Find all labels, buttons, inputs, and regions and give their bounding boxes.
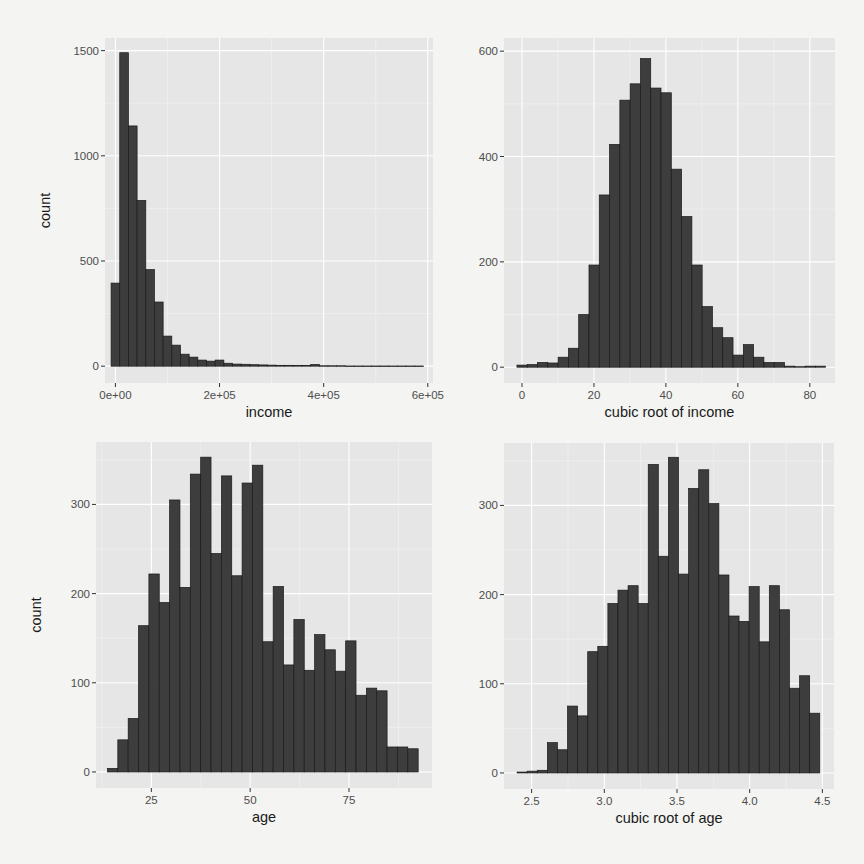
- x-tick-label: 4e+05: [308, 389, 340, 401]
- histogram-bar: [805, 366, 815, 367]
- histogram-bar: [241, 364, 250, 366]
- histogram-bar: [517, 772, 527, 773]
- histogram-bar: [294, 619, 304, 771]
- histogram-bar: [800, 676, 810, 773]
- histogram-bar: [304, 670, 314, 772]
- x-tick-label: 2e+05: [203, 389, 235, 401]
- histogram-bar: [692, 265, 702, 367]
- histogram-bar: [739, 621, 749, 773]
- histogram-bar: [538, 362, 548, 367]
- x-axis-title: cubic root of income: [605, 404, 735, 420]
- y-tick-label: 300: [71, 498, 90, 510]
- histogram-bar: [671, 169, 681, 367]
- histogram-bar: [180, 354, 189, 366]
- panel-cubic-root-income: 0204060800200400600cubic root of income: [479, 38, 835, 420]
- x-tick-label: 0: [519, 389, 525, 401]
- histogram-bar: [598, 646, 608, 773]
- histogram-bar: [630, 84, 640, 367]
- histogram-bar: [759, 642, 769, 773]
- histogram-bar: [628, 586, 638, 773]
- histogram-bar: [638, 604, 648, 773]
- histogram-bar: [557, 750, 567, 773]
- histogram-bar: [795, 367, 805, 368]
- histogram-bar: [371, 366, 380, 367]
- histogram-bar: [620, 100, 630, 367]
- y-axis-title: count: [28, 597, 44, 632]
- panel-income: 0e+002e+054e+056e+05050010001500incomeco…: [37, 38, 444, 420]
- histogram-bar: [242, 483, 252, 772]
- histogram-bar: [589, 265, 599, 367]
- x-tick-label: 0e+00: [99, 389, 131, 401]
- histogram-bar: [146, 270, 155, 367]
- histogram-bar: [284, 665, 294, 772]
- histogram-bar: [618, 590, 628, 773]
- y-tick-label: 200: [479, 589, 498, 601]
- histogram-bar: [311, 364, 320, 366]
- histogram-bar: [699, 470, 709, 773]
- histogram-bar: [779, 610, 789, 773]
- histogram-bar: [661, 93, 671, 367]
- y-tick-label: 200: [479, 256, 498, 268]
- histogram-bar: [610, 144, 620, 367]
- histogram-bar: [712, 328, 722, 368]
- histogram-bar: [743, 345, 753, 368]
- histogram-bar: [189, 357, 198, 366]
- x-tick-label: 3.0: [596, 795, 612, 807]
- panel-age: 2550750100200300agecount: [28, 442, 432, 825]
- histogram-bar: [139, 626, 149, 772]
- y-tick-label: 0: [492, 767, 498, 779]
- histogram-bar: [302, 366, 311, 367]
- histogram-bar: [180, 587, 190, 772]
- histogram-bar: [232, 576, 242, 772]
- histogram-bar: [568, 348, 578, 367]
- histogram-bar: [387, 747, 397, 772]
- histogram-bar: [568, 706, 578, 773]
- histogram-bar: [608, 604, 618, 773]
- histogram-bar: [579, 315, 589, 368]
- y-tick-label: 300: [479, 499, 498, 511]
- histogram-bar: [749, 587, 759, 773]
- y-tick-label: 0: [84, 766, 90, 778]
- panel-cubic-root-age: 2.53.03.54.04.50100200300cubic root of a…: [479, 443, 834, 826]
- histogram-bar: [335, 671, 345, 772]
- histogram-bar: [815, 366, 825, 367]
- histogram-bar: [345, 366, 354, 367]
- histogram-bar: [190, 474, 200, 772]
- x-tick-label: 40: [660, 389, 673, 401]
- x-tick-label: 75: [343, 794, 356, 806]
- histogram-bar: [527, 365, 537, 368]
- histogram-bar: [233, 364, 242, 366]
- x-axis-title: age: [252, 809, 276, 825]
- histogram-bar: [415, 366, 424, 367]
- histogram-bar: [397, 747, 407, 772]
- histogram-bar: [211, 553, 221, 771]
- x-tick-label: 80: [803, 389, 816, 401]
- x-tick-label: 25: [145, 794, 158, 806]
- histogram-bar: [719, 575, 729, 773]
- x-axis-title: income: [246, 404, 293, 420]
- histogram-bar: [128, 718, 138, 772]
- x-tick-label: 50: [244, 794, 257, 806]
- histogram-bar: [408, 749, 418, 772]
- x-tick-label: 20: [588, 389, 601, 401]
- histogram-bar: [366, 688, 376, 772]
- histogram-bar: [558, 357, 568, 367]
- y-tick-label: 500: [80, 255, 99, 267]
- y-tick-label: 0: [492, 361, 498, 373]
- histogram-bar: [527, 771, 537, 773]
- histogram-bar: [250, 365, 259, 366]
- histogram-bar: [517, 365, 527, 367]
- histogram-bar: [548, 363, 558, 367]
- histogram-bar: [709, 504, 719, 773]
- histogram-bar: [319, 366, 328, 367]
- histogram-bar: [346, 641, 356, 772]
- y-tick-label: 1500: [73, 45, 99, 57]
- x-tick-label: 3.5: [669, 795, 685, 807]
- histogram-bar: [354, 366, 363, 367]
- histogram-bar: [774, 362, 784, 367]
- y-tick-label: 400: [479, 151, 498, 163]
- histogram-bar: [325, 650, 335, 772]
- histogram-bar: [764, 362, 774, 367]
- histogram-bar: [380, 366, 389, 367]
- histogram-bar: [198, 360, 207, 366]
